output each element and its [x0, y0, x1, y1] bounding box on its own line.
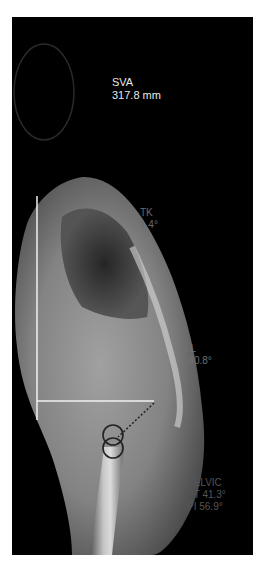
head-outline	[14, 44, 74, 140]
ll-label: LL -40.8°	[185, 343, 212, 367]
pt-value: PT 41.3°	[187, 489, 226, 501]
ll-title: LL	[185, 343, 212, 355]
sva-title: SVA	[112, 76, 161, 89]
tk-label: TK 1.4°	[140, 207, 158, 231]
pi-value: PI 56.9°	[187, 501, 226, 513]
pelvic-title: PELVIC	[187, 477, 226, 489]
sva-label: SVA 317.8 mm	[112, 76, 161, 102]
tk-title: TK	[140, 207, 158, 219]
xray-image: SVA 317.8 mm TK 1.4° LL -40.8° PELVIC PT…	[12, 17, 253, 555]
ll-value: -40.8°	[185, 355, 212, 367]
sva-value: 317.8 mm	[112, 89, 161, 102]
pelvic-label: PELVIC PT 41.3° PI 56.9°	[187, 477, 226, 513]
tk-value: 1.4°	[140, 219, 158, 231]
